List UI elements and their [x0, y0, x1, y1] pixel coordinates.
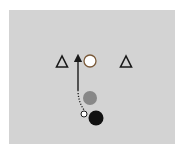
cone-triangle-right-icon: [121, 56, 132, 67]
cone-triangle-left-icon: [57, 56, 68, 67]
drill-diagram: [0, 0, 183, 153]
dribble-path-dotted: [78, 90, 84, 110]
ball-icon: [81, 111, 87, 117]
player-white-circle: [84, 55, 96, 67]
player-gray-circle: [83, 91, 97, 105]
player-black-circle: [89, 111, 104, 126]
